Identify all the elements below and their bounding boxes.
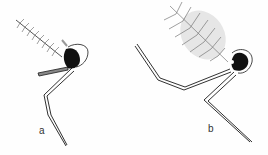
figure: a b <box>0 0 268 155</box>
panel-a-drawing <box>16 19 88 146</box>
panel-label-b: b <box>208 124 214 134</box>
panel-b-drawing <box>135 2 252 142</box>
panel-label-a: a <box>39 126 45 136</box>
